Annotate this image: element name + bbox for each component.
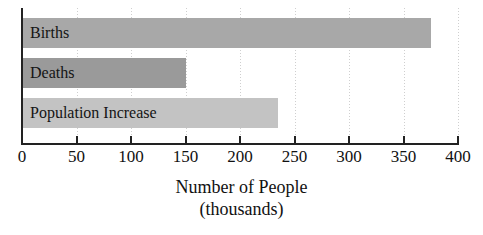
gridline [458,8,459,142]
tick-label: 150 [173,147,199,167]
tick-mark [76,136,78,144]
bar-label: Births [30,18,69,48]
tick-mark [294,136,296,144]
y-axis-line [21,8,23,144]
bar-label: Population Increase [30,98,157,128]
tick-mark [185,136,187,144]
bar-chart: BirthsDeathsPopulation Increase 05010015… [0,0,483,235]
bar-births[interactable] [22,18,431,48]
plot-area: BirthsDeathsPopulation Increase [22,8,458,142]
tick-label: 300 [336,147,362,167]
x-axis-title-line2: (thousands) [0,198,483,220]
tick-mark [348,136,350,144]
x-axis-title-line1: Number of People [0,176,483,198]
tick-mark [130,136,132,144]
bar-row[interactable]: Deaths [22,58,458,88]
x-axis-title: Number of People (thousands) [0,176,483,220]
bar-row[interactable]: Births [22,18,458,48]
tick-mark [457,136,459,144]
tick-label: 350 [391,147,417,167]
bar-row[interactable]: Population Increase [22,98,458,128]
tick-label: 50 [68,147,85,167]
tick-label: 400 [445,147,471,167]
tick-label: 100 [118,147,144,167]
tick-label: 250 [282,147,308,167]
tick-mark [403,136,405,144]
tick-mark [239,136,241,144]
tick-label: 0 [18,147,27,167]
tick-mark [21,136,23,144]
tick-label: 200 [227,147,253,167]
bar-label: Deaths [30,58,74,88]
